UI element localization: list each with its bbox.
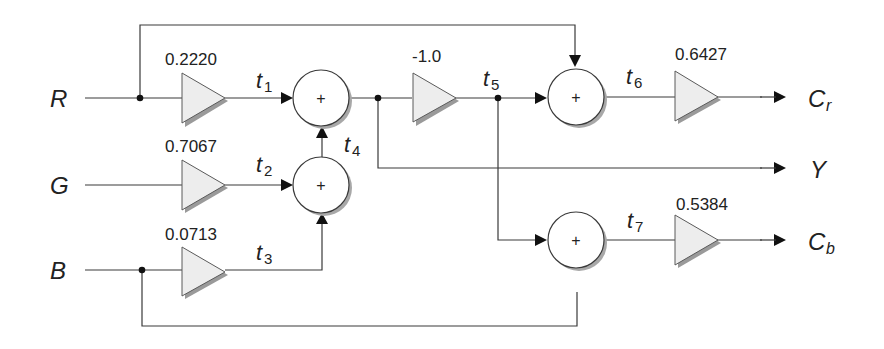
plus-icon: +	[571, 89, 580, 106]
arrow-icon	[535, 234, 547, 246]
signal-sub: 6	[634, 74, 642, 91]
output-sub: b	[826, 240, 835, 257]
input-b: B	[50, 257, 66, 284]
gain-block-r	[182, 73, 228, 127]
gain-block-g	[182, 160, 228, 213]
signal-base: t	[256, 68, 263, 93]
adder-cr: +	[548, 69, 607, 128]
signal-sub: 4	[352, 142, 360, 159]
signal-sub: 3	[264, 250, 272, 267]
gain-block-cr	[675, 71, 721, 124]
output-label: C	[808, 85, 826, 112]
adder-cb: +	[548, 212, 607, 271]
output-cb: C b	[808, 228, 835, 257]
gain-label-cb: 0.5384	[676, 195, 728, 214]
signal-sub: 2	[264, 162, 272, 179]
input-g: G	[50, 172, 69, 199]
signal-sub: 5	[491, 76, 499, 93]
junction-t5	[495, 95, 502, 102]
signal-sub: 7	[635, 218, 643, 235]
output-label: Y	[810, 156, 828, 183]
output-y: Y	[810, 156, 828, 183]
signal-base: t	[256, 240, 263, 265]
gain-label-g: 0.7067	[165, 137, 217, 156]
arrow-icon	[569, 55, 581, 67]
signal-base: t	[256, 152, 263, 177]
plus-icon: +	[316, 177, 325, 194]
arrow-icon	[281, 92, 293, 104]
gain-block-b	[182, 247, 228, 299]
signal-t1: t 1	[256, 68, 272, 95]
gain-label-r: 0.2220	[165, 50, 217, 69]
output-sub: r	[826, 97, 832, 114]
junction-r	[137, 95, 144, 102]
input-r: R	[50, 85, 67, 112]
gain-label-cr: 0.6427	[675, 45, 727, 64]
gain-block-neg	[413, 73, 459, 126]
signal-t6: t 6	[626, 64, 642, 91]
adder-gb: +	[293, 157, 352, 216]
gain-label-neg: -1.0	[412, 47, 441, 66]
arrow-icon	[281, 179, 293, 191]
wire-t3	[225, 222, 322, 270]
output-cr: C r	[808, 85, 832, 114]
signal-sub: 1	[264, 78, 272, 95]
rgb-to-ycbcr-diagram: + + + + 0.2220 0.7067 0.0713 -1.0 0.6427…	[0, 0, 884, 349]
signal-t2: t 2	[256, 152, 272, 179]
signal-base: t	[627, 208, 634, 233]
signal-base: t	[344, 132, 351, 157]
junction-b	[139, 267, 146, 274]
plus-icon: +	[571, 232, 580, 249]
gain-block-cb	[675, 215, 721, 268]
output-label: C	[808, 228, 826, 255]
signal-t7: t 7	[627, 208, 643, 235]
signal-t4: t 4	[344, 132, 360, 159]
junction-sum	[375, 95, 382, 102]
wire-t5-cb	[498, 98, 535, 240]
signal-t5: t 5	[483, 66, 499, 93]
plus-icon: +	[316, 90, 325, 107]
arrow-icon	[535, 92, 547, 104]
gain-label-b: 0.0713	[165, 225, 217, 244]
signal-base: t	[483, 66, 490, 91]
signal-base: t	[626, 64, 633, 89]
adder-luma: +	[293, 70, 352, 129]
signal-t3: t 3	[256, 240, 272, 267]
